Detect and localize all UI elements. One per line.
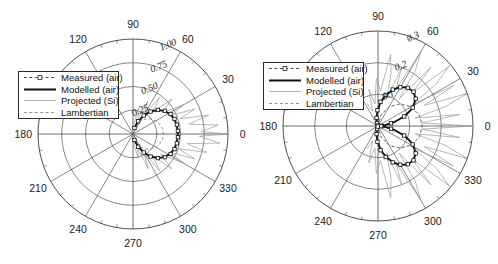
measured-marker	[411, 106, 414, 109]
measured-marker	[156, 108, 159, 111]
legend-label: Measured (air)	[306, 63, 368, 74]
legend-row: Modelled (air)	[264, 75, 363, 87]
measured-marker	[176, 129, 179, 132]
angular-tick-label: 120	[69, 33, 87, 45]
radial-tick-label: 0.2	[393, 58, 409, 73]
measured-marker	[411, 143, 414, 146]
measured-marker	[175, 142, 178, 145]
measured-marker	[376, 108, 379, 111]
angular-tick-label: 180	[260, 120, 278, 132]
angular-tick-label: 300	[179, 223, 197, 235]
polar-panel-left: 03060901201802102402703003300.250.500.75…	[0, 0, 249, 264]
measured-marker	[173, 117, 176, 120]
angular-tick-label: 330	[219, 182, 237, 194]
angular-tick-label: 270	[369, 229, 387, 241]
legend-swatch-thick-solid-line	[23, 84, 57, 95]
measured-marker	[376, 140, 379, 143]
legend-row: Lambertian	[19, 107, 118, 119]
measured-marker	[389, 122, 392, 125]
measured-marker	[136, 120, 139, 123]
angular-tick-label: 210	[29, 182, 47, 194]
polar-plot-left-svg: 03060901201802102402703003300.250.500.75…	[0, 0, 249, 264]
angular-tick-label: 90	[127, 18, 139, 30]
angular-tick-label: 60	[427, 25, 439, 37]
measured-marker	[376, 125, 379, 128]
measured-marker	[379, 125, 382, 128]
legend-row: Projected (Si)	[264, 86, 363, 98]
angular-tick-label: 30	[467, 65, 479, 77]
measured-marker	[384, 155, 387, 158]
angular-tick-label: 180	[15, 128, 33, 140]
measured-marker	[375, 116, 378, 119]
measured-marker	[412, 159, 415, 162]
angular-tick-label: 330	[464, 174, 482, 186]
legend-row: Lambertian	[264, 98, 363, 110]
measured-marker	[173, 147, 176, 150]
measured-marker	[414, 97, 417, 100]
measured-marker	[399, 163, 402, 166]
measured-marker	[163, 155, 166, 158]
polar-plot-right-svg: 03060901201802102402703003300.10.20.3	[249, 0, 498, 264]
measured-marker	[402, 134, 405, 137]
measured-marker	[149, 155, 152, 158]
legend-label: Measured (air)	[61, 72, 123, 83]
legend-row: Measured (air)	[19, 72, 118, 84]
legend-swatch-thin-solid-line	[23, 95, 57, 106]
measured-marker	[133, 138, 136, 141]
legend-swatch-thick-solid-line	[268, 75, 302, 86]
measured-marker	[406, 86, 409, 89]
legend-row: Projected (Si)	[19, 95, 118, 107]
angular-tick-label: 270	[124, 237, 142, 249]
measured-marker	[169, 152, 172, 155]
measured-marker	[379, 100, 382, 103]
measured-marker	[163, 109, 166, 112]
legend-swatch-dashed-line-with-square-marker	[23, 72, 57, 83]
angular-tick-label: 90	[372, 10, 384, 22]
radial-tick-label: 1.00	[158, 36, 178, 53]
angular-tick-label: 0	[240, 128, 246, 140]
angular-tick-label: 210	[274, 174, 292, 186]
legend-right: Measured (air)Modelled (air)Projected (S…	[263, 62, 364, 110]
legend-label: Modelled (air)	[306, 75, 364, 86]
measured-marker	[136, 145, 139, 148]
measured-marker	[379, 149, 382, 152]
measured-marker	[176, 135, 179, 138]
angular-tick-label: 0	[485, 120, 491, 132]
radial-tick-label: 0.3	[405, 29, 421, 44]
legend-swatch-dashed-line-with-square-marker	[268, 63, 302, 74]
measured-marker	[391, 161, 394, 164]
measured-marker	[412, 90, 415, 93]
legend-label: Lambertian	[61, 107, 109, 118]
angular-tick-label: 60	[182, 33, 194, 45]
polar-figure: 03060901201802102402703003300.250.500.75…	[0, 0, 498, 264]
measured-marker	[389, 127, 392, 130]
polar-panel-right: 03060901201802102402703003300.10.20.3 Me…	[249, 0, 498, 264]
angular-tick-label: 30	[222, 73, 234, 85]
measured-marker	[414, 152, 417, 155]
measured-marker	[133, 126, 136, 129]
angular-tick-label: 300	[424, 215, 442, 227]
legend-label: Modelled (air)	[61, 84, 119, 95]
legend-row: Modelled (air)	[19, 84, 118, 96]
measured-marker	[375, 132, 378, 135]
legend-left: Measured (air)Modelled (air)Projected (S…	[18, 71, 119, 119]
measured-marker	[175, 123, 178, 126]
legend-label: Lambertian	[306, 98, 354, 109]
angular-tick-label: 240	[314, 215, 332, 227]
measured-marker	[169, 112, 172, 115]
radial-tick-label: 0.75	[148, 58, 168, 75]
measured-marker	[406, 162, 409, 165]
angular-tick-label: 120	[314, 25, 332, 37]
legend-label: Projected (Si)	[61, 95, 119, 106]
measured-marker	[399, 86, 402, 89]
measured-marker	[402, 115, 405, 118]
legend-label: Projected (Si)	[306, 86, 364, 97]
legend-row: Measured (air)	[264, 63, 363, 75]
measured-marker	[156, 156, 159, 159]
angular-tick-label: 240	[69, 223, 87, 235]
legend-swatch-fine-dashed-line	[23, 107, 57, 118]
legend-swatch-fine-dashed-line	[268, 98, 302, 109]
measured-marker	[142, 151, 145, 154]
legend-swatch-thin-solid-line	[268, 86, 302, 97]
